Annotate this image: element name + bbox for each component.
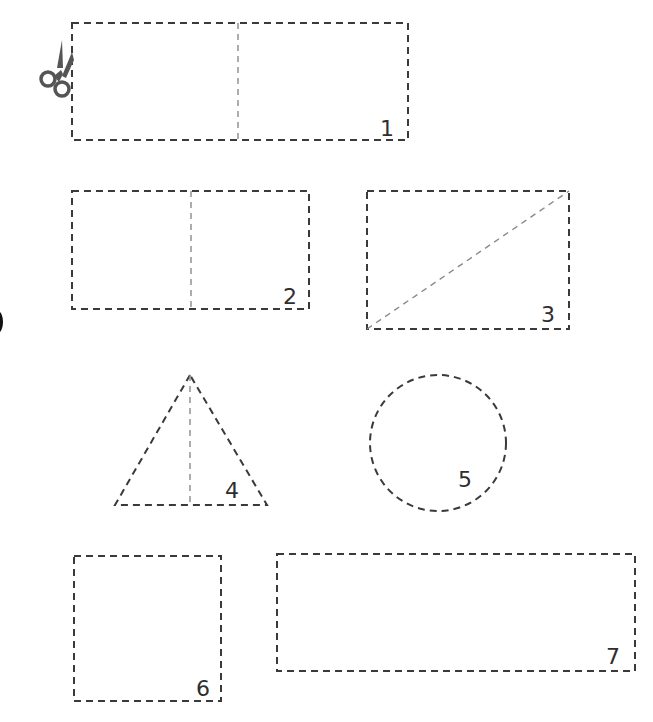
shape-2-label: 2	[283, 284, 297, 309]
shape-5-cut-line	[370, 375, 506, 511]
shape-1-cut-line	[72, 23, 408, 140]
shape-4-label: 4	[225, 478, 239, 503]
scissors-icon	[41, 40, 74, 96]
shape-4-cut-line	[115, 375, 267, 505]
shape-6-label: 6	[196, 676, 210, 701]
shape-7: 7	[277, 554, 635, 671]
shape-7-cut-line	[277, 554, 635, 671]
shape-3: 3	[367, 191, 569, 329]
shape-3-fold-line	[367, 191, 569, 329]
shape-3-label: 3	[541, 302, 555, 327]
shape-6: 6	[74, 556, 221, 701]
shape-7-label: 7	[606, 644, 620, 669]
shape-4: 4	[115, 375, 267, 505]
shape-1: 1	[72, 23, 408, 141]
shape-5: 5	[370, 375, 506, 511]
shape-2: 2	[72, 191, 309, 309]
cut-and-fold-worksheet: 1 2 3 4 5 6 7	[0, 0, 653, 722]
shape-1-label: 1	[380, 116, 394, 141]
shape-5-label: 5	[458, 467, 472, 492]
edge-mark	[0, 311, 3, 333]
